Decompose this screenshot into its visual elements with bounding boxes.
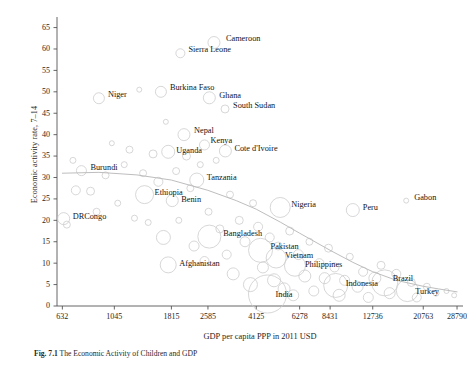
- bubble-marker: [319, 273, 330, 284]
- bubble-marker: [178, 129, 190, 141]
- bubble-marker: [145, 219, 151, 225]
- y-tick-label: 40: [24, 130, 50, 139]
- bubble-marker: [452, 293, 457, 298]
- bubble-marker: [213, 157, 219, 163]
- bubble-marker: [333, 289, 345, 301]
- bubble-marker: [250, 200, 257, 207]
- bubble-marker: [270, 197, 290, 217]
- point-label-ghana: Ghana: [219, 92, 241, 100]
- bubble-marker: [363, 292, 373, 302]
- y-tick-label: 35: [24, 151, 50, 160]
- y-tick-label: 65: [24, 23, 50, 32]
- bubble-marker: [286, 227, 294, 235]
- y-tick-label: 15: [24, 237, 50, 246]
- y-tick-label: 20: [24, 216, 50, 225]
- point-label-nepal: Nepal: [194, 127, 214, 135]
- point-label-benin: Benin: [181, 196, 201, 204]
- bubble-marker: [197, 162, 203, 168]
- bubble-marker: [384, 288, 395, 299]
- bubble-marker: [190, 173, 204, 187]
- bubble-marker: [173, 168, 180, 175]
- bubble-marker: [131, 215, 137, 221]
- point-label-gabon: Gabon: [414, 194, 436, 202]
- bubble-marker: [309, 286, 319, 296]
- bubble-marker: [221, 105, 229, 113]
- bubble-marker: [205, 208, 212, 215]
- point-label-burundi: Burundi: [90, 164, 117, 172]
- bubble-marker: [136, 186, 154, 204]
- y-tick-label: 10: [24, 259, 50, 268]
- y-tick-label: 30: [24, 173, 50, 182]
- x-tick-label: 632: [56, 312, 68, 321]
- y-tick-label: 60: [24, 44, 50, 53]
- bubble-marker: [176, 49, 185, 58]
- bubble-marker: [346, 204, 359, 217]
- y-tick-label: 45: [24, 109, 50, 118]
- point-label-cameroon: Cameroon: [226, 35, 261, 43]
- bubble-marker: [268, 274, 281, 287]
- bubble-marker: [257, 262, 268, 273]
- x-tick-label: 28790: [447, 312, 467, 321]
- bubble-markers: [58, 37, 457, 313]
- x-tick-label: 6278: [292, 312, 308, 321]
- bubble-marker: [163, 119, 168, 124]
- bubble-marker: [93, 93, 104, 104]
- point-label-turkey: Turkey: [415, 288, 439, 296]
- bubble-marker: [115, 200, 121, 206]
- point-label-south-sudan: South Sudan: [233, 102, 275, 110]
- bubble-marker: [265, 233, 274, 242]
- x-tick-label: 1045: [106, 312, 122, 321]
- x-tick-label: 4125: [248, 312, 264, 321]
- point-label-uganda: Uganda: [176, 147, 202, 155]
- y-tick-label: 50: [24, 87, 50, 96]
- x-tick-label: 1815: [163, 312, 179, 321]
- point-label-indonesia: Indonesia: [346, 280, 378, 288]
- point-label-kenya: Kenya: [210, 137, 232, 145]
- point-label-ethiopia: Ethiopia: [155, 189, 183, 197]
- y-tick-label: 25: [24, 194, 50, 203]
- x-tick-label: 8431: [322, 312, 338, 321]
- bubble-marker: [222, 250, 231, 259]
- point-label-nigeria: Nigeria: [291, 201, 316, 209]
- point-label-niger: Niger: [108, 91, 127, 99]
- y-tick-label: 55: [24, 66, 50, 75]
- bubble-marker: [126, 146, 133, 153]
- bubble-marker: [240, 237, 250, 247]
- point-label-drcongo: DRCongo: [73, 213, 107, 221]
- point-label-burkina-faso: Burkina Faso: [170, 84, 214, 92]
- bubble-marker: [377, 261, 385, 269]
- bubble-marker: [121, 162, 127, 168]
- point-label-peru: Peru: [363, 204, 378, 212]
- y-tick-label: 0: [24, 301, 50, 310]
- bubble-marker: [137, 87, 142, 92]
- bubble-marker: [76, 166, 86, 176]
- bubble-marker: [299, 270, 311, 282]
- bubble-marker: [219, 145, 231, 157]
- point-label-brazil: Brazil: [393, 275, 413, 283]
- bubble-marker: [176, 217, 182, 223]
- caption-text: The Economic Activity of Children and GD…: [60, 349, 198, 358]
- x-tick-label: 12736: [363, 312, 383, 321]
- bubble-marker: [227, 268, 239, 280]
- bubble-marker: [162, 145, 175, 158]
- y-tick-label: 5: [24, 280, 50, 289]
- bubble-marker: [156, 230, 170, 244]
- point-label-cote-d-ivoire: Cote d'Ivoire: [234, 145, 277, 153]
- bubble-marker: [404, 198, 409, 203]
- point-label-philippines: Philippines: [305, 261, 342, 269]
- bubble-marker: [149, 150, 157, 158]
- point-label-sierra-leone: Sierra Leone: [188, 46, 231, 54]
- bubble-marker: [71, 186, 80, 195]
- bubble-marker: [155, 86, 166, 97]
- bubble-marker: [70, 157, 76, 163]
- bubble-marker: [189, 241, 199, 251]
- bubble-marker: [444, 289, 449, 294]
- x-tick-label: 2585: [200, 312, 216, 321]
- x-axis-title: GDP per capita PPP in 2011 USD: [57, 332, 463, 341]
- point-label-afghanistan: Afghanistan: [179, 260, 220, 268]
- y-tick-marks: [54, 28, 58, 306]
- caption-number: Fig. 7.1: [34, 349, 58, 358]
- point-label-bangladesh: Bangladesh: [223, 230, 262, 238]
